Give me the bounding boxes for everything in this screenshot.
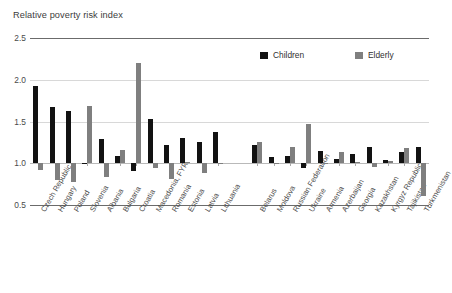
x-axis-tick <box>339 163 340 166</box>
y-axis-tick-label: 0.5 <box>14 200 26 210</box>
bar-children-ukraine <box>301 163 306 168</box>
bar-elderly-hungary <box>55 163 60 180</box>
bar-elderly-azerbaijan <box>339 152 344 164</box>
x-axis-tick <box>120 163 121 166</box>
bar-elderly-croatia <box>136 63 141 163</box>
bar-elderly-czech-republic <box>38 163 43 170</box>
bar-elderly-armenia <box>323 163 328 164</box>
gridline-2.0: 2.0 <box>30 80 429 81</box>
bar-elderly-romania <box>169 163 174 179</box>
x-axis-tick <box>257 163 258 166</box>
bar-children-estonia <box>180 138 185 163</box>
bar-children-slovenia <box>82 163 87 164</box>
bar-children-hungary <box>50 107 55 163</box>
bar-children-czech-republic <box>33 86 38 164</box>
bar-elderly-moldova <box>274 163 279 164</box>
bar-children-kazakhstan <box>367 147 372 163</box>
bar-elderly-russian-federation <box>290 147 295 163</box>
bar-elderly-kazakhstan <box>372 163 377 167</box>
bar-elderly-poland <box>71 163 76 182</box>
bar-children-romania <box>164 145 169 163</box>
x-axis-tick <box>388 163 389 166</box>
bar-children-lithuania <box>213 132 218 164</box>
x-axis-tick <box>355 163 356 166</box>
bar-elderly-ukraine <box>306 124 311 163</box>
x-axis-tick <box>185 163 186 166</box>
bar-elderly-kyrgyz-republic <box>388 161 393 164</box>
bar-elderly-turkmenistan <box>421 163 426 196</box>
chart-title: Relative poverty risk index <box>13 10 123 20</box>
bar-elderly-tajikistan <box>404 148 409 163</box>
bar-children-croatia <box>131 163 136 171</box>
x-axis-tick <box>290 163 291 166</box>
x-axis-tick <box>404 163 405 166</box>
x-axis-label-latvia: Latvia <box>203 191 221 213</box>
y-axis-tick-label: 1.5 <box>14 117 26 127</box>
bar-elderly-georgia <box>355 162 360 163</box>
plot-area: 0.51.01.52.02.5Czech RepublicHungaryPola… <box>30 38 429 205</box>
x-axis-label-turkmenistan: Turkmenistan <box>422 169 452 213</box>
bar-elderly-belarus <box>257 142 262 164</box>
bar-elderly-latvia <box>202 163 207 173</box>
bar-children-albania <box>99 139 104 163</box>
bar-children-poland <box>66 111 71 163</box>
baseline-axis <box>30 163 429 164</box>
bar-elderly-lithuania <box>218 163 223 164</box>
gridline-2.5: 2.5 <box>30 38 429 39</box>
bar-children-macedonia-fyr <box>148 119 153 163</box>
bar-elderly-macedonia-fyr <box>153 163 158 168</box>
bar-elderly-albania <box>104 163 109 177</box>
y-axis-tick-label: 1.0 <box>14 158 26 168</box>
bar-children-latvia <box>197 142 202 163</box>
bar-elderly-bulgaria <box>120 150 125 163</box>
bar-children-armenia <box>318 151 323 164</box>
bar-elderly-estonia <box>185 162 190 163</box>
y-axis-tick-label: 2.0 <box>14 75 26 85</box>
bar-elderly-slovenia <box>87 106 92 163</box>
x-axis-label-lithuania: Lithuania <box>219 182 242 213</box>
bar-children-turkmenistan <box>416 147 421 164</box>
y-axis-tick-label: 2.5 <box>14 33 26 43</box>
